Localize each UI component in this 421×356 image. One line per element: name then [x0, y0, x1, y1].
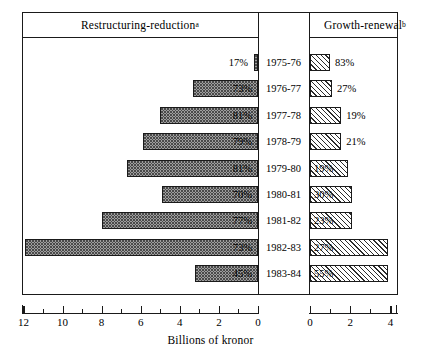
axis-tick-label: 0: [246, 316, 270, 328]
bar-label-restructuring-reduction: 81%: [160, 107, 252, 124]
bar-label-growth-renewal: 21%: [346, 133, 404, 150]
axis-tick-major: [23, 306, 24, 313]
chart-row: 73%1982-8327%: [22, 235, 398, 261]
axis-tick-label: 10: [51, 316, 75, 328]
row-year-label: 1982-83: [258, 239, 309, 256]
bar-label-restructuring-reduction: 81%: [127, 160, 252, 177]
header-growth-renewal: Growth-renewalb: [310, 12, 420, 38]
chart-row: 45%1983-8455%: [22, 261, 398, 287]
left-axis-line: [22, 313, 259, 314]
bar-label-growth-renewal: 19%: [346, 107, 404, 124]
bar-label-restructuring-reduction: 77%: [102, 212, 252, 229]
row-year-label: 1978-79: [258, 133, 309, 150]
axis-tick-label: 4: [378, 316, 402, 328]
axis-tick-major: [310, 306, 311, 313]
chart-row: 70%1980-8130%: [22, 182, 398, 208]
row-year-label: 1977-78: [258, 107, 309, 124]
axis-tick-label: 0: [298, 316, 322, 328]
axis-tick-major: [180, 306, 181, 313]
header-growth-renewal-label: Growth-renewal: [324, 19, 402, 31]
chart-plot-area: 17%1975-7683%73%1976-7727%81%1977-7819%7…: [22, 38, 398, 295]
row-year-label: 1981-82: [258, 212, 309, 229]
row-year-label: 1983-84: [258, 265, 309, 282]
axis-tick-minor: [199, 309, 200, 313]
bar-label-restructuring-reduction: 45%: [195, 265, 252, 282]
axis-tick-label: 12: [11, 316, 35, 328]
bar-label-growth-renewal: 27%: [337, 80, 395, 97]
axis-tick-major: [63, 306, 64, 313]
chart-row: 73%1976-7727%: [22, 76, 398, 102]
axis-tick-minor: [121, 309, 122, 313]
bar-label-restructuring-reduction: 79%: [143, 133, 252, 150]
bar-label-restructuring-reduction: 73%: [25, 239, 252, 256]
bar-label-restructuring-reduction: 17%: [190, 54, 248, 71]
bar-growth-renewal: [310, 80, 332, 97]
axis-tick-minor: [43, 309, 44, 313]
bar-growth-renewal: [310, 54, 330, 71]
axis-tick-major: [102, 306, 103, 313]
bar-label-growth-renewal: 23%: [314, 212, 350, 229]
axis-tick-major: [390, 306, 391, 313]
chart-row: 81%1977-7819%: [22, 103, 398, 129]
bar-label-growth-renewal: 27%: [314, 239, 386, 256]
row-year-label: 1975-76: [258, 54, 309, 71]
axis-tick-label: 2: [207, 316, 231, 328]
bar-label-restructuring-reduction: 73%: [193, 80, 252, 97]
right-axis-line: [309, 313, 398, 314]
axis-tick-major: [141, 306, 142, 313]
header-restructuring-reduction-label: Restructuring-reduction: [81, 19, 195, 31]
chart-row: 77%1981-8223%: [22, 208, 398, 234]
bar-growth-renewal: [310, 133, 341, 150]
row-year-label: 1979-80: [258, 160, 309, 177]
bar-label-growth-renewal: 55%: [314, 265, 386, 282]
axis-tick-major: [219, 306, 220, 313]
bar-label-growth-renewal: 83%: [335, 54, 393, 71]
chart-row: 79%1978-7921%: [22, 129, 398, 155]
axis-tick-major: [258, 306, 259, 313]
axis-tick-label: 6: [129, 316, 153, 328]
axis-tick-label: 4: [168, 316, 192, 328]
axis-tick-minor: [82, 309, 83, 313]
axis-tick-minor: [160, 309, 161, 313]
chart-row: 81%1979-8019%: [22, 156, 398, 182]
header-restructuring-reduction: Restructuring-reductiona: [22, 12, 258, 38]
axis-tick-minor: [370, 309, 371, 313]
axis-tick-label: 8: [90, 316, 114, 328]
axis-tick-label: 2: [338, 316, 362, 328]
axis-tick-minor: [238, 309, 239, 313]
row-year-label: 1980-81: [258, 186, 309, 203]
bar-label-growth-renewal: 30%: [314, 186, 350, 203]
chart-container: Restructuring-reductiona Growth-renewalb…: [0, 0, 421, 356]
axis-tick-major: [350, 306, 351, 313]
right-axis-end-cap: [396, 305, 397, 314]
row-year-label: 1976-77: [258, 80, 309, 97]
header-center-spacer: [258, 12, 310, 38]
axis-title: Billions of kronor: [0, 334, 421, 346]
bar-label-growth-renewal: 19%: [314, 160, 346, 177]
bar-label-restructuring-reduction: 70%: [162, 186, 252, 203]
chart-row: 17%1975-7683%: [22, 50, 398, 76]
axis-tick-minor: [330, 309, 331, 313]
chart-header-band: Restructuring-reductiona Growth-renewalb: [22, 12, 398, 38]
bar-growth-renewal: [310, 107, 341, 124]
